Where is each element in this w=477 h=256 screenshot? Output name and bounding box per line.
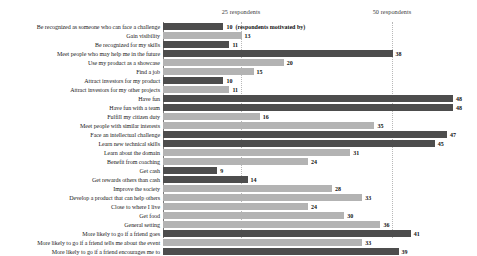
bar-row: 13	[163, 31, 465, 40]
bar	[163, 68, 254, 74]
bar-row: 39	[163, 247, 465, 256]
bar-row: 36	[163, 220, 465, 229]
category-label-row: Gain visibility	[0, 31, 162, 40]
category-label: Use my product as a showcase	[88, 60, 160, 66]
category-label: Be recognized for my skills	[95, 42, 160, 48]
category-label-row: Face an intellectual challenge	[0, 130, 162, 139]
category-axis-labels: Be recognized as someone who can face a …	[0, 22, 162, 238]
bar	[163, 32, 242, 38]
category-label: Have fun with a team	[109, 105, 160, 111]
bar-row: 31	[163, 148, 465, 157]
category-label-row: Get food	[0, 211, 162, 220]
bar-value-label: 10	[226, 24, 232, 30]
bar-value-label: 13	[245, 33, 251, 39]
category-label-row: Attract investors for my product	[0, 76, 162, 85]
bar-row: 38	[163, 49, 465, 58]
category-label: Improve the society	[113, 186, 160, 192]
bar-rows: 10(respondents motivated by)131138201510…	[163, 22, 465, 238]
bar	[163, 149, 350, 155]
bar-row: 33	[163, 193, 465, 202]
bar-value-label: 11	[232, 87, 238, 93]
bar-value-label: 41	[414, 231, 420, 237]
category-label: Develop a product that can help others	[69, 195, 160, 201]
bar-row: 47	[163, 130, 465, 139]
bar-value-label: 24	[311, 204, 317, 210]
category-label: Close to where I live	[111, 204, 160, 210]
category-label: Face an intellectual challenge	[90, 132, 160, 138]
bar-row: 20	[163, 58, 465, 67]
bar-value-label: 24	[311, 159, 317, 165]
category-label: Attract investors for my other projects	[70, 87, 160, 93]
category-label-row: Be recognized as someone who can face a …	[0, 22, 162, 31]
bar-value-label: 48	[456, 105, 462, 111]
bar-row: 11	[163, 40, 465, 49]
category-label-row: Meet people with similar interests	[0, 121, 162, 130]
bar	[163, 140, 435, 146]
bar	[163, 104, 453, 110]
category-label-row: Learn new technical skills	[0, 139, 162, 148]
category-label-row: Learn about the domain	[0, 148, 162, 157]
bar-value-label: 36	[383, 222, 389, 228]
bar	[163, 59, 284, 65]
category-label-row: Develop a product that can help others	[0, 193, 162, 202]
bar-row: 41	[163, 229, 465, 238]
bar	[163, 221, 380, 227]
bar	[163, 131, 447, 137]
bar	[163, 113, 260, 119]
bar-value-label: 48	[456, 96, 462, 102]
bar	[163, 203, 308, 209]
category-label: Get cash	[140, 168, 160, 174]
category-label-row: Get cash	[0, 166, 162, 175]
bar	[163, 95, 453, 101]
category-label-row: Have fun with a team	[0, 103, 162, 112]
bar-row: 30	[163, 211, 465, 220]
category-label: Fulfill my citizen duty	[107, 114, 160, 120]
category-label-row: Fulfill my citizen duty	[0, 112, 162, 121]
bar-value-label: 38	[396, 51, 402, 57]
category-label: More likely to go if a friend tells me a…	[37, 240, 160, 246]
bar-row: 35	[163, 121, 465, 130]
bar-value-label: 31	[353, 150, 359, 156]
plot-area: 10(respondents motivated by)131138201510…	[163, 22, 465, 238]
category-label: Benefit from coaching	[107, 159, 160, 165]
category-label: More likely to go if a friend encourages…	[52, 249, 160, 255]
bar	[163, 77, 223, 83]
bar-value-label: 9	[220, 168, 223, 174]
category-label-row: Find a job	[0, 67, 162, 76]
bar	[163, 41, 229, 47]
category-label-row: Close to where I live	[0, 202, 162, 211]
bar	[163, 194, 362, 200]
bar-row: 14	[163, 175, 465, 184]
x-axis-title: (respondents motivated by)	[235, 24, 305, 30]
category-label: Meet people with similar interests	[80, 123, 160, 129]
category-label: Have fun	[138, 96, 160, 102]
category-label-row: General setting	[0, 220, 162, 229]
bar-row: 15	[163, 67, 465, 76]
category-label: Get rewards others than cash	[92, 177, 160, 183]
category-label: Attract investors for my product	[84, 78, 160, 84]
bar	[163, 176, 248, 182]
bar-row: 45	[163, 139, 465, 148]
bar	[163, 23, 223, 29]
bar-value-label: 10	[226, 78, 232, 84]
bar	[163, 50, 393, 56]
bar-value-label: 30	[347, 213, 353, 219]
axis-tick-label-50: 50 respondents	[373, 8, 412, 15]
category-label: Be recognized as someone who can face a …	[37, 24, 160, 30]
category-label: Find a job	[136, 69, 160, 75]
axis-tick-label-25: 25 respondents	[222, 8, 261, 15]
bar-value-label: 39	[402, 249, 408, 255]
category-label-row: Attract investors for my other projects	[0, 85, 162, 94]
bar-row: 33	[163, 238, 465, 247]
bar-value-label: 20	[287, 60, 293, 66]
bar-row: 24	[163, 202, 465, 211]
category-label-row: More likely to go if a friend goes	[0, 229, 162, 238]
category-label: Gain visibility	[126, 33, 160, 39]
bar-row: 16	[163, 112, 465, 121]
bar	[163, 86, 229, 92]
bar-value-label: 14	[251, 177, 257, 183]
bar-row: 10(respondents motivated by)	[163, 22, 465, 31]
bar-row: 48	[163, 94, 465, 103]
bar	[163, 239, 362, 245]
